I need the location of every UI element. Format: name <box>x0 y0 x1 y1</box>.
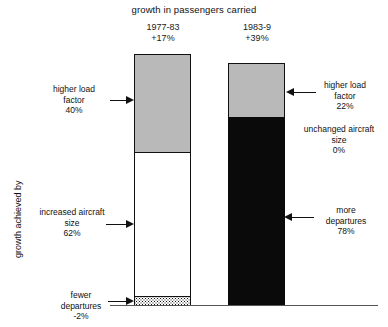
leader-line-load-22 <box>294 92 316 93</box>
baseline-axis <box>110 305 378 306</box>
bar2-segment-higher-load-factor <box>228 63 285 118</box>
annotation-fewer-departures-minus2: fewer departures -2% <box>40 290 122 322</box>
arrow-head-size-62 <box>126 220 135 229</box>
y-axis-label: growth achieved by <box>13 180 23 258</box>
annotation-higher-load-factor-40: higher load factor 40% <box>32 84 116 116</box>
arrow-head-load-22 <box>285 88 294 97</box>
bar2-segment-more-departures <box>228 117 285 305</box>
chart-canvas: growth in passengers carried 1977-83 +17… <box>0 0 388 327</box>
annotation-increased-aircraft-size-62: increased aircraft size 62% <box>26 207 118 239</box>
annotation-more-departures-78: more departures 78% <box>308 205 384 237</box>
bar1-segment-increased-aircraft-size <box>134 152 191 297</box>
column-header-1-name: 1977-83 <box>118 22 208 33</box>
arrow-head-load-40 <box>126 96 135 105</box>
arrow-head-fewer-dep <box>126 297 135 306</box>
annotation-higher-load-factor-22: higher load factor 22% <box>306 80 384 112</box>
column-header-2-name: 1983-9 <box>212 22 302 33</box>
column-header-1: 1977-83 +17% <box>118 22 208 44</box>
column-header-2: 1983-9 +39% <box>212 22 302 44</box>
annotation-unchanged-aircraft-size-0: unchanged aircraft size 0% <box>291 124 387 156</box>
column-header-1-value: +17% <box>118 33 208 44</box>
chart-title: growth in passengers carried <box>0 5 388 16</box>
bar1-segment-higher-load-factor <box>134 54 191 153</box>
column-header-2-value: +39% <box>212 33 302 44</box>
leader-line-more-dep-78 <box>292 217 314 218</box>
arrow-head-more-dep-78 <box>283 213 292 222</box>
